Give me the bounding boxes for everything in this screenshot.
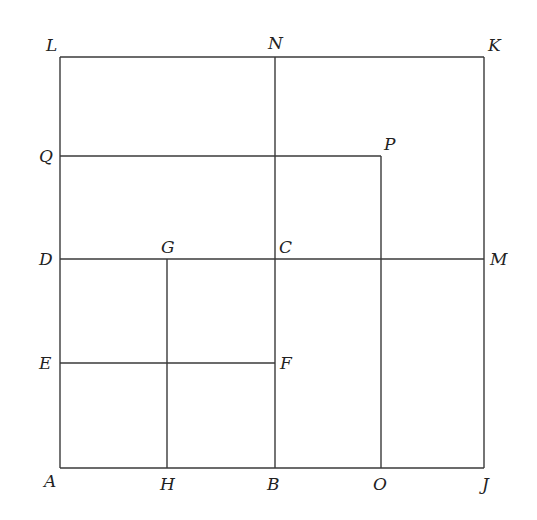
diagram-segments (60, 57, 484, 468)
diagram-point-labels: LNKQPDGCMEFAHBOJ (38, 33, 508, 494)
point-label-h: H (159, 474, 176, 494)
point-label-g: G (161, 237, 175, 257)
point-label-k: K (487, 35, 502, 55)
geometry-diagram: LNKQPDGCMEFAHBOJ (0, 0, 537, 520)
point-label-c: C (279, 237, 292, 257)
point-label-o: O (373, 474, 387, 494)
point-label-p: P (383, 134, 396, 154)
point-label-a: A (42, 471, 56, 491)
point-label-j: J (479, 474, 490, 494)
point-label-q: Q (39, 146, 53, 166)
point-label-n: N (267, 33, 284, 53)
point-label-e: E (38, 353, 52, 373)
point-label-l: L (45, 35, 57, 55)
point-label-f: F (279, 353, 293, 373)
point-label-m: M (489, 249, 508, 269)
point-label-b: B (266, 474, 280, 494)
point-label-d: D (38, 249, 53, 269)
